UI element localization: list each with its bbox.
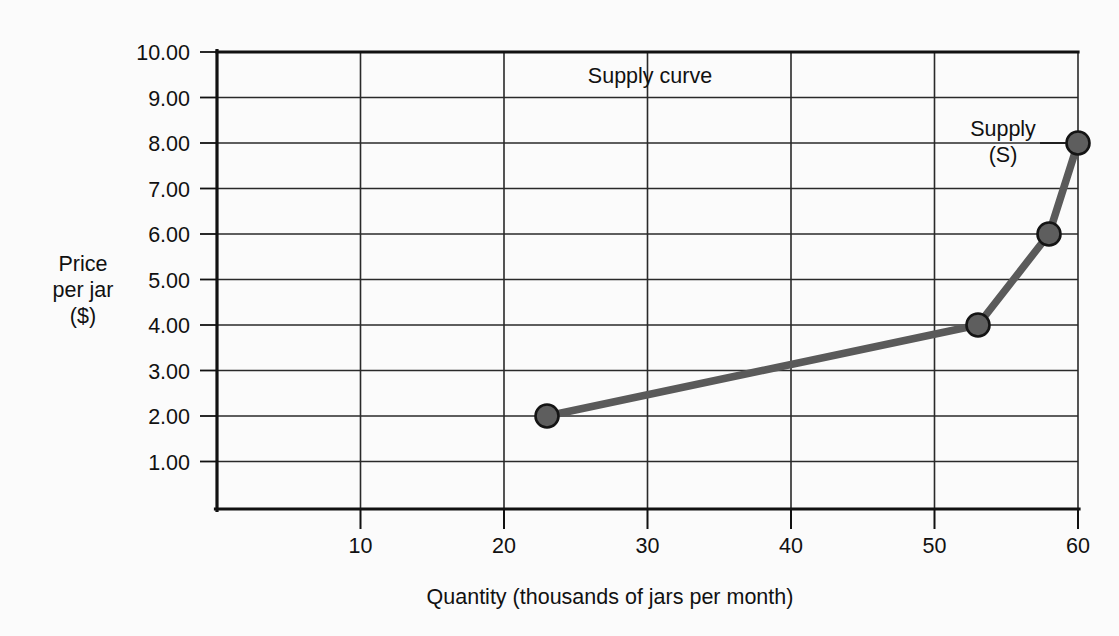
ytick-label-1: 1.00 [148, 451, 190, 475]
ytick-label-8: 8.00 [148, 132, 190, 156]
x-axis-title: Quantity (thousands of jars per month) [427, 585, 794, 609]
data-point-4 [1067, 132, 1090, 155]
y-axis-title-line-2: per jar [53, 278, 114, 302]
ytick-label-3: 3.00 [148, 360, 190, 384]
xtick-label-50: 50 [923, 534, 947, 558]
ytick-label-6: 6.00 [148, 223, 190, 247]
data-point-2 [967, 314, 990, 337]
xtick-label-20: 20 [492, 534, 516, 558]
y-tick-marks [200, 52, 217, 462]
ytick-label-10: 10.00 [136, 41, 190, 65]
x-tick-marks [361, 509, 1079, 529]
ytick-label-7: 7.00 [148, 178, 190, 202]
ytick-label-5: 5.00 [148, 269, 190, 293]
supply-curve-figure: 10.00 9.00 8.00 7.00 6.00 5.00 4.00 3.00… [0, 0, 1119, 636]
y-axis-title: Price per jar ($) [53, 252, 114, 328]
y-axis-title-line-3: ($) [70, 304, 96, 328]
data-point-3 [1038, 223, 1061, 246]
data-point-1 [536, 405, 559, 428]
y-axis-title-line-1: Price [59, 252, 108, 276]
xtick-label-30: 30 [636, 534, 660, 558]
chart-title: Supply curve [588, 64, 712, 88]
supply-annotation-line-2: (S) [989, 143, 1018, 167]
y-tick-labels: 10.00 9.00 8.00 7.00 6.00 5.00 4.00 3.00… [136, 41, 190, 475]
ytick-label-2: 2.00 [148, 405, 190, 429]
x-tick-labels: 10 20 30 40 50 60 [349, 534, 1090, 558]
supply-curve-chart: 10.00 9.00 8.00 7.00 6.00 5.00 4.00 3.00… [0, 0, 1119, 636]
xtick-label-10: 10 [349, 534, 373, 558]
supply-annotation: Supply (S) [970, 117, 1066, 167]
ytick-label-9: 9.00 [148, 87, 190, 111]
supply-annotation-line-1: Supply [970, 117, 1036, 141]
xtick-label-60: 60 [1066, 534, 1090, 558]
xtick-label-40: 40 [779, 534, 803, 558]
ytick-label-4: 4.00 [148, 314, 190, 338]
